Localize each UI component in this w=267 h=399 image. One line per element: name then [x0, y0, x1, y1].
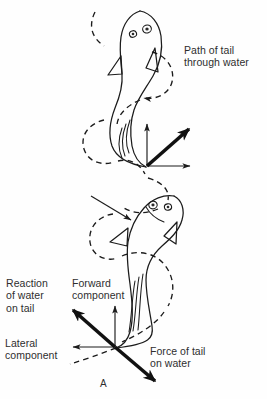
label-force-of-tail-on-water: Force of tail on water	[150, 345, 206, 370]
vector-reaction-upper	[147, 129, 189, 166]
fish-locomotion-figure: Path of tail through water Reaction of w…	[0, 0, 267, 399]
vector-group-upper	[147, 124, 190, 166]
label-forward-component: Forward component	[72, 277, 124, 302]
fish-lower	[110, 196, 183, 348]
panel-label: A	[100, 378, 107, 389]
label-reaction-of-water-on-tail: Reaction of water on tail	[6, 277, 48, 314]
fish-upper	[108, 11, 162, 167]
label-lateral-component: Lateral component	[5, 337, 57, 362]
vector-group-lower	[73, 306, 155, 381]
vector-reaction-of-water-on-tail	[73, 310, 115, 347]
vector-force-of-tail-on-water	[115, 347, 155, 381]
label-path-of-tail: Path of tail through water	[184, 44, 249, 69]
